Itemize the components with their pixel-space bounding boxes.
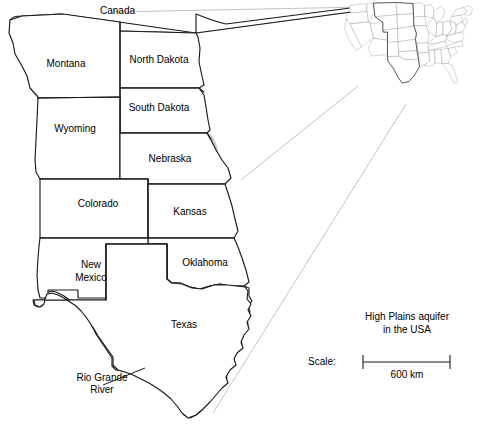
inset-state-texas — [387, 57, 419, 84]
label-rio-grande-line2: River — [90, 384, 114, 395]
inset-state-montana — [374, 3, 397, 17]
label-wyoming: Wyoming — [54, 123, 96, 134]
leader-line-middle — [241, 86, 358, 180]
label-nebraska: Nebraska — [149, 153, 192, 164]
label-canada: Canada — [100, 5, 135, 16]
label-kansas: Kansas — [173, 206, 206, 217]
inset-state-washington — [349, 4, 367, 14]
inset-state-indiana — [436, 22, 443, 37]
inset-usa-map — [345, 3, 473, 84]
figure-title-line2: in the USA — [383, 324, 431, 335]
inset-state-minnesota — [413, 3, 425, 18]
map-canvas: Canada Montana North Dakota South Dakota… — [0, 0, 480, 426]
inset-state-iowa — [413, 16, 426, 26]
inset-state-new-mexico — [387, 42, 398, 57]
label-new-mexico-line2: Mexico — [75, 272, 107, 283]
label-north-dakota: North Dakota — [130, 54, 189, 65]
inset-state-arkansas — [417, 43, 428, 53]
inset-state-florida — [442, 63, 458, 83]
scale-value: 600 km — [391, 369, 424, 380]
scale-bar-group — [363, 355, 450, 369]
inset-state-wisconsin — [425, 5, 434, 18]
inset-state-alabama — [435, 49, 442, 63]
label-new-mexico-line1: New — [81, 259, 102, 270]
label-rio-grande-line1: Rio Grande — [76, 372, 128, 383]
inset-state-arizona — [368, 38, 387, 56]
figure-title-line1: High Plains aquifer — [365, 311, 450, 322]
label-colorado: Colorado — [78, 198, 119, 209]
label-south-dakota: South Dakota — [129, 102, 190, 113]
inset-state-oregon — [346, 12, 368, 24]
inset-state-north-dakota — [396, 3, 413, 15]
inset-states-group — [345, 3, 473, 84]
label-oklahoma: Oklahoma — [182, 257, 228, 268]
state-wyoming — [35, 97, 120, 179]
label-texas: Texas — [171, 319, 197, 330]
high-plains-aquifer-map-figure: Canada Montana North Dakota South Dakota… — [0, 0, 480, 426]
label-montana: Montana — [47, 58, 86, 69]
scale-label: Scale: — [308, 356, 336, 367]
